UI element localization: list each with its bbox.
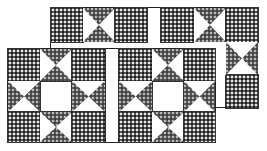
hourglass-horizontal xyxy=(184,81,215,112)
fabric-square xyxy=(161,8,194,42)
front-quilt-block xyxy=(7,48,216,143)
hourglass-vertical xyxy=(40,49,72,81)
fabric-square xyxy=(184,49,215,81)
fabric-square xyxy=(8,112,40,142)
sashing-strip xyxy=(147,8,161,42)
fabric-square xyxy=(119,112,152,142)
star-center xyxy=(152,81,184,112)
hourglass-horizontal xyxy=(72,81,105,112)
hourglass-horizontal xyxy=(8,81,40,112)
fabric-square xyxy=(8,49,40,81)
hourglass-vertical xyxy=(194,8,226,42)
hourglass-vertical xyxy=(83,8,115,42)
sashing-strip xyxy=(105,49,119,142)
hourglass-vertical xyxy=(152,49,184,81)
fabric-square xyxy=(51,8,83,42)
star-center xyxy=(40,81,72,112)
fabric-square xyxy=(72,49,105,81)
fabric-square xyxy=(226,75,258,108)
fabric-square xyxy=(226,8,258,42)
fabric-square xyxy=(115,8,147,42)
fabric-square xyxy=(119,49,152,81)
hourglass-horizontal xyxy=(119,81,152,112)
hourglass-vertical xyxy=(40,112,72,142)
fabric-square xyxy=(184,112,215,142)
hourglass-vertical xyxy=(152,112,184,142)
fabric-square xyxy=(72,112,105,142)
hourglass-horizontal xyxy=(226,42,258,75)
